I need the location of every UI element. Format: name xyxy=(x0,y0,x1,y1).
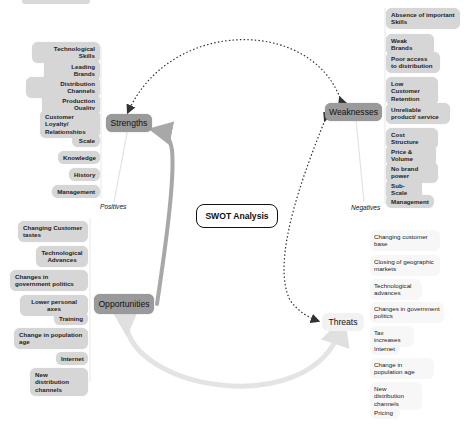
threats-node[interactable]: Threats xyxy=(322,313,364,331)
weaknesses-item: Absence of important Skills xyxy=(386,8,460,29)
negatives-label: Negatives xyxy=(351,204,380,211)
threats-item: Closing of geographic markets xyxy=(370,255,440,276)
strengths-item: Scale xyxy=(72,134,100,147)
opportunities-item: Training xyxy=(54,312,88,325)
threats-item: Technological advances xyxy=(370,279,422,300)
strengths-node[interactable]: Strengths xyxy=(106,114,152,132)
weaknesses-node[interactable]: Weaknesses xyxy=(325,103,382,121)
threats-weaknesses-arrow xyxy=(284,120,325,321)
strengths-item: History xyxy=(69,168,100,181)
weaknesses-label: Weaknesses xyxy=(329,107,378,117)
threats-label: Threats xyxy=(328,317,357,327)
swot-analysis-title-node[interactable]: SWOT Analysis xyxy=(196,204,278,228)
opportunities-strengths-arrow xyxy=(157,131,173,304)
weaknesses-item: Management xyxy=(386,195,434,208)
strengths-positives-line xyxy=(114,128,128,202)
weaknesses-item: Low Customer Retention xyxy=(386,77,438,105)
threats-opportunities-arrow xyxy=(126,322,340,386)
threats-item: Internet xyxy=(370,342,400,355)
opportunities-item: Changing Customer tastes xyxy=(18,221,88,242)
strengths-item: Management xyxy=(52,185,100,198)
positives-label: Positives xyxy=(100,203,126,210)
weaknesses-item: Poor access to distribution xyxy=(386,52,440,73)
opportunities-item: Changes in government politics xyxy=(10,270,88,291)
opportunities-item: Technological Advances xyxy=(36,246,88,267)
opportunities-label: Opportunities xyxy=(98,299,149,309)
weaknesses-negatives-line xyxy=(356,120,364,202)
threats-item: Change in population age xyxy=(370,358,434,379)
threats-item: Pricing xyxy=(370,406,400,419)
strengths-label: Strengths xyxy=(111,118,148,128)
swot-diagram-canvas: Technological Skills Leading Brands Dist… xyxy=(0,0,465,423)
opportunities-item: Internet xyxy=(56,352,88,365)
threats-item: Changing customer base xyxy=(370,230,440,251)
threats-item: Changes in government politics xyxy=(370,302,444,323)
opportunities-item: Change in population age xyxy=(14,328,88,349)
strengths-item: Knowledge xyxy=(58,151,100,164)
weaknesses-item: Unreliable product/ service xyxy=(386,103,450,124)
weaknesses-strengths-arrow xyxy=(128,40,340,112)
opportunities-node[interactable]: Opportunities xyxy=(94,294,154,314)
opportunities-item: New distribution channels xyxy=(30,368,88,396)
swot-analysis-title: SWOT Analysis xyxy=(205,211,268,221)
